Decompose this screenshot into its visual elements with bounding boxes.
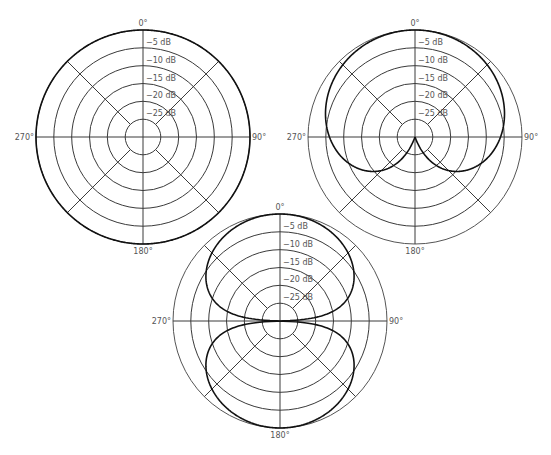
ring-label: −25 dB xyxy=(283,293,313,302)
ring-label: −10 dB xyxy=(283,240,313,249)
axis-diagonal-315 xyxy=(204,245,267,308)
angle-label-90: 90° xyxy=(389,317,403,326)
angle-label-0: 0° xyxy=(275,203,284,212)
angle-label-270: 270° xyxy=(152,317,171,326)
ring-label: −20 dB xyxy=(283,275,313,284)
axis-diagonal-135 xyxy=(293,334,356,397)
polar-plot-figure-eight: −5 dB−10 dB−15 dB−20 dB−25 dB0°180°90°27… xyxy=(0,0,551,455)
angle-label-180: 180° xyxy=(270,431,289,440)
ring-label: −15 dB xyxy=(283,258,313,267)
axis-diagonal-225 xyxy=(204,334,267,397)
ring-label: −5 dB xyxy=(283,222,308,231)
